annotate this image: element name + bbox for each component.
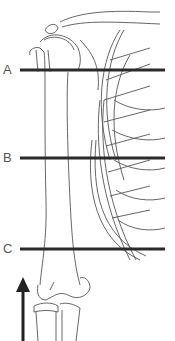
radius-head <box>34 303 58 312</box>
clavicle-top <box>60 11 160 22</box>
humerus-right-edge <box>67 72 80 285</box>
costal-cartilage <box>104 110 150 122</box>
section-label-b: B <box>3 151 12 164</box>
costal-cartilage <box>110 186 150 196</box>
section-label-a: A <box>3 63 12 76</box>
anatomy-diagram: A B C <box>0 0 175 341</box>
section-lines <box>20 70 165 249</box>
rib-arc <box>116 190 165 200</box>
rib-arc <box>112 130 165 140</box>
costal-cartilage <box>108 160 150 172</box>
up-arrow-icon <box>16 277 30 341</box>
costal-cartilage <box>104 86 150 100</box>
rib-arc <box>118 220 165 230</box>
radius-left <box>36 312 38 341</box>
acromion <box>45 24 58 33</box>
rib-arc <box>114 100 165 110</box>
costal-cartilage <box>106 64 150 80</box>
ulna <box>60 303 80 341</box>
epicondyle-line <box>50 282 54 290</box>
costal-cartilage <box>112 210 150 218</box>
section-label-c: C <box>3 242 12 255</box>
anatomy-drawing <box>0 0 175 341</box>
scapula-edge <box>80 40 98 90</box>
humeral-head <box>40 35 80 70</box>
clavicle-bottom <box>62 22 160 27</box>
costal-cartilage <box>110 48 150 60</box>
bone-outlines <box>30 11 165 341</box>
distal-humerus <box>37 277 90 300</box>
